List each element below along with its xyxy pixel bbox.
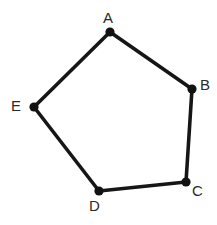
polygon-edge-de xyxy=(34,107,99,191)
vertex-label-a: A xyxy=(103,10,113,25)
vertex-dot-a xyxy=(105,27,114,36)
polygon-edge-ab xyxy=(110,32,192,89)
polygon-figure: A B C D E xyxy=(0,0,217,225)
polygon-edge-cd xyxy=(99,182,186,191)
polygon-canvas xyxy=(0,0,217,225)
edges-group xyxy=(34,32,192,191)
vertices-group xyxy=(29,27,196,195)
vertex-dot-c xyxy=(181,177,190,186)
polygon-edge-bc xyxy=(186,89,192,182)
vertex-dot-e xyxy=(29,102,38,111)
vertex-dot-b xyxy=(187,84,196,93)
vertex-dot-d xyxy=(94,186,103,195)
vertex-label-c: C xyxy=(192,183,203,198)
vertex-label-d: D xyxy=(89,198,100,213)
polygon-edge-ea xyxy=(34,32,110,107)
vertex-label-e: E xyxy=(11,98,21,113)
vertex-label-b: B xyxy=(200,77,210,92)
